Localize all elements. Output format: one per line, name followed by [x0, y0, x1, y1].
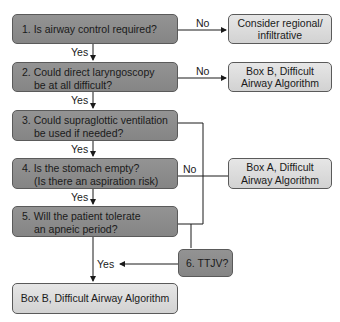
label-q1-no: No — [196, 17, 209, 29]
node-q2-line1: 2. Could direct laryngoscopy — [22, 66, 155, 79]
node-q1-text: 1. Is airway control required? — [22, 23, 157, 36]
label-q6-yes: Yes — [97, 258, 114, 270]
label-q2-yes: Yes — [71, 94, 88, 106]
node-consider-regional: Consider regional/infiltrative — [228, 14, 332, 44]
box-b-right-line1: Box B, Difficult — [241, 65, 319, 78]
label-q1-yes: Yes — [71, 46, 88, 58]
node-q5-line1: 5. Will the patient tolerate — [22, 210, 140, 223]
node-q4-stomach-empty: 4. Is the stomach empty? (Is there an as… — [12, 158, 178, 189]
regional-line2: infiltrative — [237, 29, 322, 42]
node-box-a: Box A, DifficultAirway Algorithm — [228, 158, 332, 189]
node-q2-line2: be at all difficult? — [34, 79, 112, 92]
box-a-line2: Airway Algorithm — [241, 174, 319, 187]
label-q4-yes: Yes — [71, 191, 88, 203]
node-q6-text: 6. TTJV? — [186, 257, 228, 270]
regional-line1: Consider regional/ — [237, 17, 322, 30]
node-q6-ttjv: 6. TTJV? — [178, 249, 233, 277]
node-box-b-right: Box B, DifficultAirway Algorithm — [228, 62, 332, 92]
node-q3-line1: 3. Could supraglottic ventilation — [22, 114, 168, 127]
box-b-right-line2: Airway Algorithm — [241, 77, 319, 90]
node-q2-laryngoscopy: 2. Could direct laryngoscopy be at all d… — [12, 62, 178, 92]
label-q2-no: No — [196, 65, 209, 77]
node-q5-apneic-period: 5. Will the patient tolerate an apneic p… — [12, 206, 178, 237]
box-a-line1: Box A, Difficult — [241, 161, 319, 174]
node-q1-airway-control: 1. Is airway control required? — [12, 14, 178, 44]
node-q3-supraglottic: 3. Could supraglottic ventilation be use… — [12, 110, 178, 141]
node-q4-line2: (Is there an aspiration risk) — [34, 175, 158, 188]
node-box-b-bottom: Box B, Difficult Airway Algorithm — [12, 283, 178, 314]
label-q4-no: No — [183, 163, 196, 175]
node-q4-line1: 4. Is the stomach empty? — [22, 162, 139, 175]
node-q5-line2: an apneic period? — [34, 223, 117, 236]
box-b-bottom-text: Box B, Difficult Airway Algorithm — [21, 292, 170, 305]
label-q3-yes: Yes — [71, 143, 88, 155]
node-q3-line2: be used if needed? — [34, 127, 123, 140]
